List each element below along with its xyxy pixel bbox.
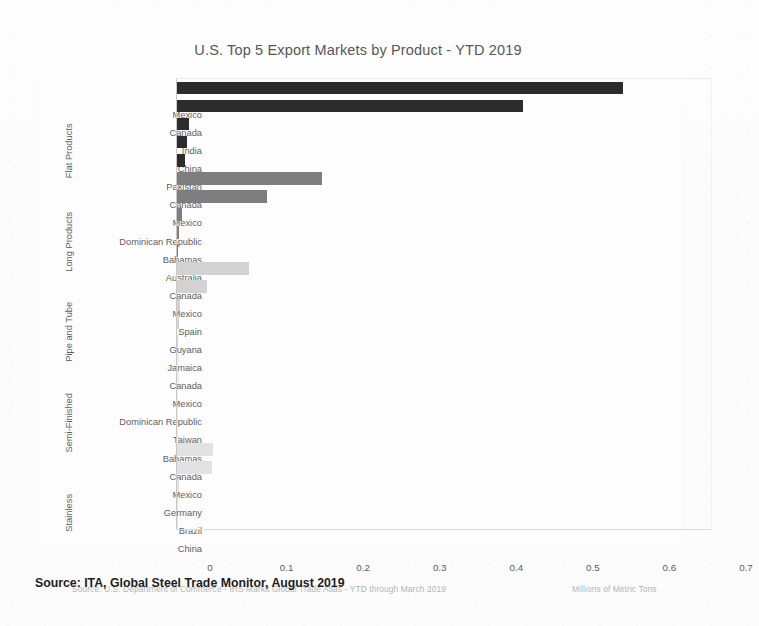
chart-figure: U.S. Top 5 Export Markets by Product - Y… <box>34 28 682 550</box>
bar-row <box>177 115 711 133</box>
bar <box>177 244 178 257</box>
bar-row <box>177 151 711 169</box>
bar-row <box>177 368 711 386</box>
bar-row <box>177 423 711 441</box>
bar <box>177 154 185 167</box>
bars-container <box>177 79 711 529</box>
bar <box>177 172 322 185</box>
bar <box>177 317 179 330</box>
chart-title: U.S. Top 5 Export Markets by Product - Y… <box>34 42 682 58</box>
bar <box>177 461 212 474</box>
x-tick-label: 0.6 <box>663 562 677 573</box>
x-tick-label: 0.5 <box>586 562 600 573</box>
bar-row <box>177 441 711 459</box>
bar-row <box>177 459 711 477</box>
x-tick-label: 0.7 <box>739 562 753 573</box>
bar <box>177 389 178 402</box>
figure-caption: Source: ITA, Global Steel Trade Monitor,… <box>35 576 345 590</box>
category-label: China <box>34 540 202 558</box>
bar <box>177 299 180 312</box>
bar <box>177 262 249 275</box>
bar <box>177 516 178 529</box>
bar <box>177 407 178 420</box>
bar-row <box>177 79 711 97</box>
bar-row <box>177 350 711 368</box>
bar <box>177 136 187 149</box>
x-tick-label: 0.2 <box>356 562 370 573</box>
bar-row <box>177 97 711 115</box>
bar <box>177 82 623 95</box>
x-axis-unit-label: Millions of Metric Tons <box>572 584 657 594</box>
bar <box>177 118 189 131</box>
bar-row <box>177 133 711 151</box>
x-tick-label: 0.4 <box>509 562 523 573</box>
bar <box>177 100 523 113</box>
bar <box>177 208 182 221</box>
bar-row <box>177 296 711 314</box>
bar <box>177 353 179 366</box>
bar-row <box>177 260 711 278</box>
x-tick-label: 0.3 <box>433 562 447 573</box>
bar <box>177 443 213 456</box>
bar-row <box>177 477 711 495</box>
bar-row <box>177 206 711 224</box>
bar <box>177 371 179 384</box>
bar <box>177 425 178 438</box>
bar-row <box>177 187 711 205</box>
bar <box>177 190 267 203</box>
bar-row <box>177 278 711 296</box>
bar <box>177 280 207 293</box>
bar-row <box>177 169 711 187</box>
bar-row <box>177 332 711 350</box>
bar <box>177 335 178 348</box>
bar-row <box>177 224 711 242</box>
x-tick-label: 0 <box>207 562 212 573</box>
bar <box>177 497 178 510</box>
bar <box>177 226 179 239</box>
bar <box>177 479 179 492</box>
bar-row <box>177 314 711 332</box>
plot-area <box>176 78 712 530</box>
x-tick-label: 0.1 <box>280 562 294 573</box>
bar-row <box>177 386 711 404</box>
bar-row <box>177 513 711 531</box>
bar-row <box>177 404 711 422</box>
bar-row <box>177 495 711 513</box>
bar-row <box>177 242 711 260</box>
